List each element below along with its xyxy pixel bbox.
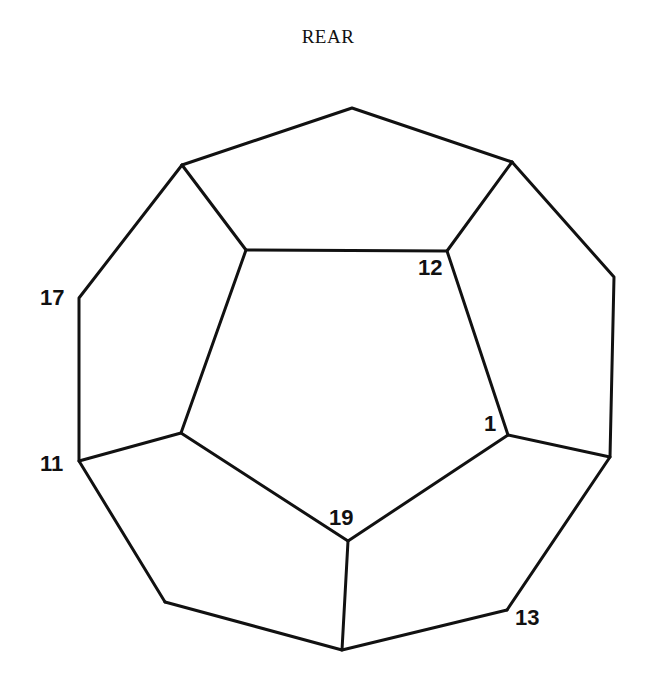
edge xyxy=(342,541,348,650)
vertex-label-19: 19 xyxy=(329,507,353,529)
vertex-label-12: 12 xyxy=(418,257,442,279)
edge xyxy=(182,108,512,165)
edge xyxy=(79,433,181,461)
dodecahedron-diagram xyxy=(0,0,656,684)
edge xyxy=(508,435,610,457)
inner-pentagon xyxy=(181,250,508,541)
edge xyxy=(79,165,182,602)
edge xyxy=(165,602,507,650)
vertex-label-1: 1 xyxy=(484,413,496,435)
vertex-label-11: 11 xyxy=(40,453,63,475)
edge xyxy=(507,162,614,610)
vertex-label-17: 17 xyxy=(40,287,64,309)
edge xyxy=(447,162,512,251)
edge xyxy=(182,165,246,250)
vertex-label-13: 13 xyxy=(515,607,539,629)
